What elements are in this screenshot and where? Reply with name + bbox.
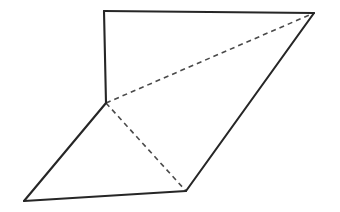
figure-canvas: [0, 0, 340, 212]
geometric-solid-drawing: [0, 0, 340, 212]
